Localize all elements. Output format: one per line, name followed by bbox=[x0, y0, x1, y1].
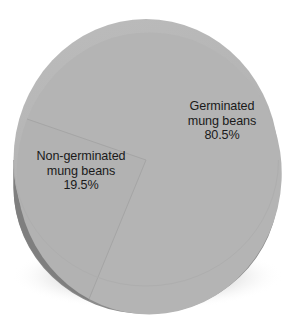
pie-label-non-germinated-line2: mung beans bbox=[19, 164, 143, 179]
pie-chart-figure: Germinated mung beans 80.5% Non-germinat… bbox=[0, 0, 291, 320]
pie-label-germinated-line1: Germinated bbox=[170, 99, 274, 114]
pie-label-germinated: Germinated mung beans 80.5% bbox=[170, 99, 274, 143]
pie-label-germinated-value: 80.5% bbox=[170, 128, 274, 143]
pie-label-non-germinated-value: 19.5% bbox=[19, 178, 143, 193]
pie-label-non-germinated-line1: Non-germinated bbox=[19, 149, 143, 164]
pie-label-germinated-line2: mung beans bbox=[170, 114, 274, 129]
pie-label-non-germinated: Non-germinated mung beans 19.5% bbox=[19, 149, 143, 193]
